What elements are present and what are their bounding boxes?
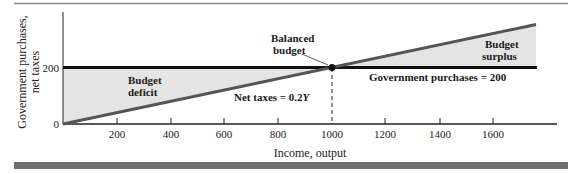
svg-text:net taxes: net taxes (28, 51, 42, 94)
x-tick-label-800: 800 (270, 128, 287, 140)
government-purchases-label: Government purchases = 200 (369, 71, 507, 83)
x-tick-label-1600: 1600 (482, 128, 505, 140)
balanced-budget-pointer (302, 54, 328, 65)
x-axis-title: Income, output (274, 146, 347, 160)
x-tick-label-1200: 1200 (374, 128, 397, 140)
balanced-budget-label: Balanced budget (271, 32, 314, 56)
budget-surplus-label: Budget surplus (482, 38, 519, 62)
x-ticks (117, 118, 493, 124)
budget-chart: 200 0 200 400 600 800 1000 1200 1400 160… (0, 0, 582, 174)
svg-text:surplus: surplus (482, 50, 518, 62)
svg-text:Budget: Budget (128, 74, 162, 86)
x-tick-label-400: 400 (163, 128, 180, 140)
bottom-bar (14, 162, 568, 169)
x-tick-label-200: 200 (109, 128, 126, 140)
net-taxes-label: Net taxes = 0.2Y (234, 91, 311, 103)
y-tick-label-200: 200 (43, 62, 60, 74)
svg-text:Balanced: Balanced (271, 32, 314, 44)
x-tick-label-1000: 1000 (321, 128, 344, 140)
x-tick-label-600: 600 (216, 128, 233, 140)
svg-text:budget: budget (273, 44, 306, 56)
y-axis-title: Government purchases, net taxes (15, 15, 42, 128)
balanced-budget-point (329, 64, 336, 71)
budget-deficit-label: Budget deficit (128, 74, 162, 98)
svg-text:deficit: deficit (128, 86, 158, 98)
svg-text:Government purchases,: Government purchases, (15, 15, 29, 128)
y-tick-label-0: 0 (54, 118, 60, 130)
x-tick-label-1400: 1400 (429, 128, 452, 140)
svg-text:Budget: Budget (485, 38, 519, 50)
